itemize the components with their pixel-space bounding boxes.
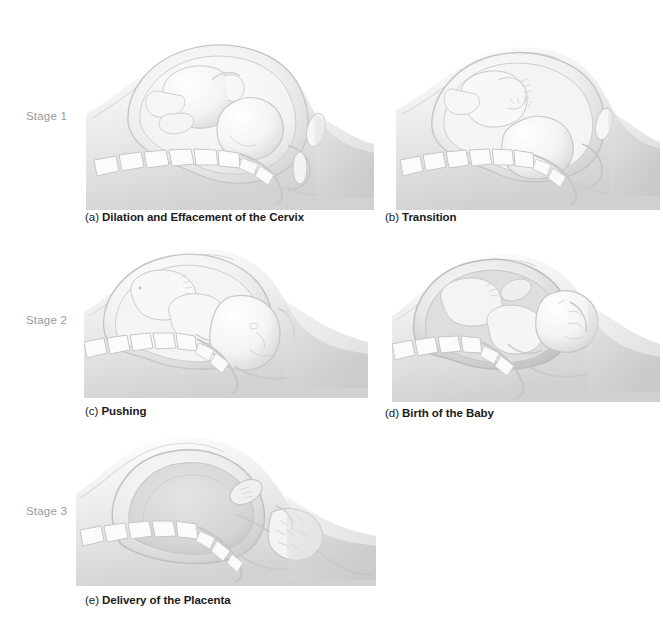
caption-e-tag: (e) [85,594,99,606]
caption-c: (c) Pushing [85,405,146,417]
caption-c-text: Pushing [101,405,146,417]
caption-a-text: Dilation and Effacement of the Cervix [102,211,304,223]
illustration-panel-c [84,238,368,398]
illustration-panel-e [76,434,376,586]
fetus-trunk-d [487,305,544,354]
stage-label-3: Stage 3 [26,505,67,517]
caption-d: (d) Birth of the Baby [385,407,494,419]
caption-c-tag: (c) [85,405,98,417]
caption-e: (e) Delivery of the Placenta [85,594,231,606]
caption-b-tag: (b) [385,211,399,223]
illustration-panel-d [392,244,660,402]
illustration-panel-a [84,18,374,210]
caption-e-text: Delivery of the Placenta [102,594,231,606]
stage-label-1: Stage 1 [26,110,67,122]
caption-a: (a) Dilation and Effacement of the Cervi… [85,211,304,223]
caption-d-text: Birth of the Baby [402,407,494,419]
stage-label-2: Stage 2 [26,314,67,326]
caption-a-tag: (a) [85,211,99,223]
caption-b: (b) Transition [385,211,457,223]
caption-b-text: Transition [402,211,456,223]
illustration-panel-b [396,18,660,210]
caption-d-tag: (d) [385,407,399,419]
